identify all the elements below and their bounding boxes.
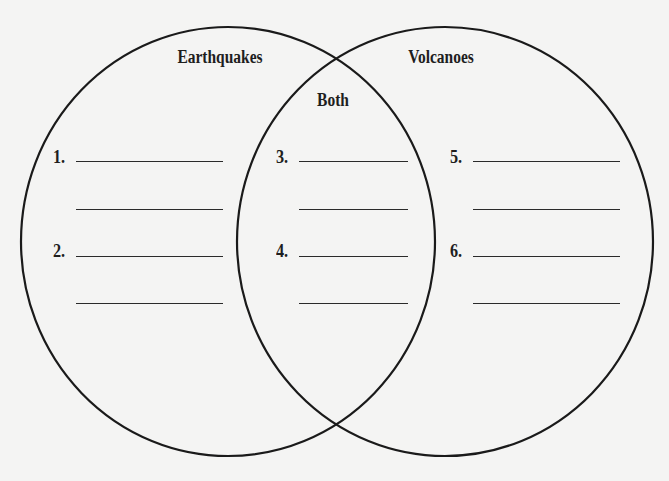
item-number-4: 4. (276, 242, 288, 260)
answer-line-5a[interactable] (473, 161, 620, 162)
answer-line-1b[interactable] (76, 209, 223, 210)
item-number-1: 1. (53, 148, 65, 166)
venn-diagram-worksheet: Earthquakes Volcanoes Both 1. 2. 3. 4. 5… (0, 0, 669, 481)
volcanoes-label: Volcanoes (408, 48, 474, 66)
item-number-3: 3. (276, 148, 288, 166)
answer-line-3a[interactable] (299, 161, 408, 162)
answer-line-5b[interactable] (473, 209, 620, 210)
answer-line-3b[interactable] (299, 209, 408, 210)
answer-line-6a[interactable] (473, 256, 620, 257)
answer-line-6b[interactable] (473, 303, 620, 304)
answer-line-2b[interactable] (76, 303, 223, 304)
answer-line-4a[interactable] (299, 256, 408, 257)
item-number-6: 6. (450, 242, 462, 260)
item-number-5: 5. (450, 148, 462, 166)
answer-line-2a[interactable] (76, 256, 223, 257)
volcanoes-circle (237, 27, 653, 456)
venn-circles (0, 0, 669, 481)
answer-line-1a[interactable] (76, 161, 223, 162)
answer-line-4b[interactable] (299, 303, 408, 304)
item-number-2: 2. (53, 242, 65, 260)
earthquakes-circle (21, 27, 435, 456)
earthquakes-label: Earthquakes (177, 48, 262, 66)
both-label: Both (317, 91, 349, 109)
